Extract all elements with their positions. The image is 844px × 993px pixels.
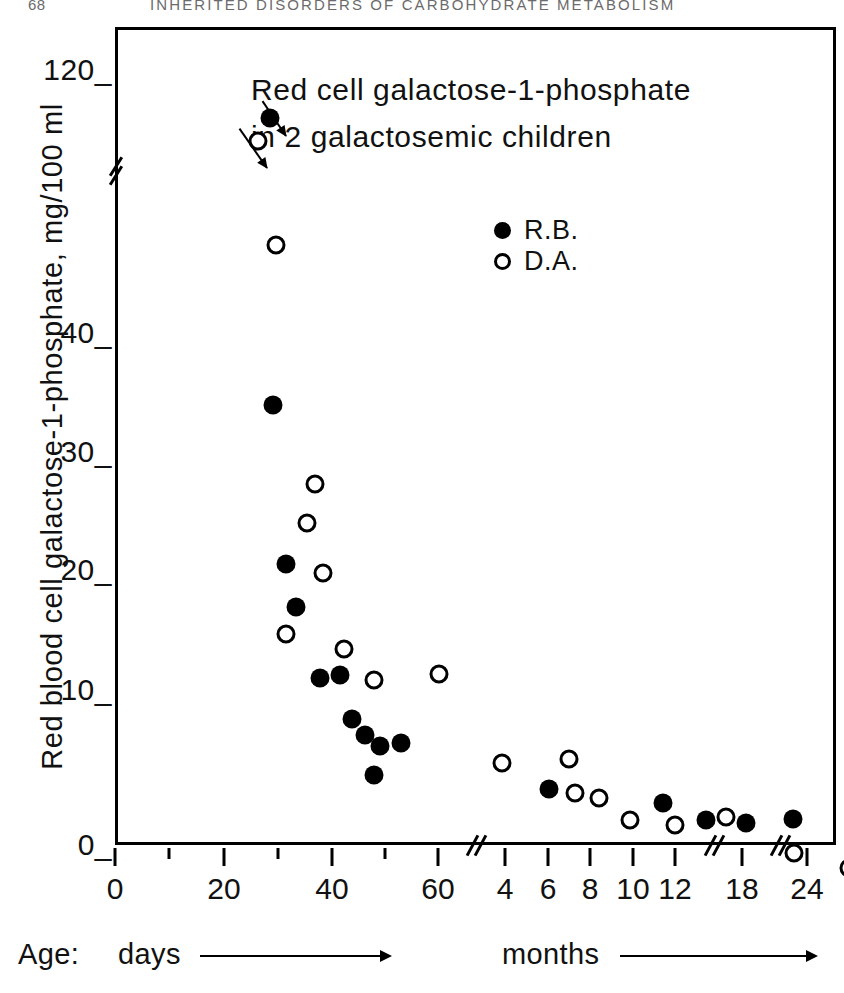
chart-legend: R.B. D.A.	[494, 215, 579, 277]
x-tick-label: 12	[658, 872, 691, 906]
data-point-da	[621, 811, 640, 830]
x-tick-mark	[674, 848, 677, 866]
open-circle-icon	[494, 253, 511, 270]
data-point-rb	[540, 780, 559, 799]
x-tick-mark	[547, 848, 550, 866]
data-point-da	[666, 816, 685, 835]
chart-title-line-2: in 2 galactosemic children	[251, 113, 691, 160]
data-point-da	[277, 625, 296, 644]
x-tick-mark	[384, 848, 387, 859]
data-point-da	[298, 514, 317, 533]
x-tick-mark	[504, 848, 507, 866]
x-tick-label: 24	[790, 872, 823, 906]
data-point-rb	[277, 555, 296, 574]
data-point-da	[306, 475, 325, 494]
x-tick-mark	[632, 848, 635, 866]
data-point-da	[493, 754, 512, 773]
data-point-rb	[392, 734, 411, 753]
x-tick-mark	[437, 848, 440, 866]
x-span-months-label: months	[502, 938, 600, 971]
x-tick-mark	[741, 848, 744, 866]
data-point-da	[590, 789, 609, 808]
running-head-title: INHERITED DISORDERS OF CARBOHYDRATE META…	[150, 0, 675, 13]
x-tick-label: 60	[421, 872, 454, 906]
data-point-da	[566, 784, 585, 803]
x-tick-label: 4	[497, 872, 514, 906]
data-point-rb	[311, 669, 330, 688]
running-head: 68 INHERITED DISORDERS OF CARBOHYDRATE M…	[0, 0, 844, 14]
data-point-rb	[371, 737, 390, 756]
x-tick-label: 6	[540, 872, 557, 906]
data-point-rb	[331, 666, 350, 685]
data-point-da	[314, 564, 333, 583]
x-axis-prefix-label: Age:	[18, 938, 79, 971]
x-tick-label: 20	[207, 872, 240, 906]
data-point-rb	[343, 710, 362, 729]
data-point-da	[785, 844, 804, 863]
data-point-da	[840, 859, 844, 878]
legend-item-da: D.A.	[494, 246, 579, 277]
x-tick-label: 18	[725, 872, 758, 906]
data-point-da	[717, 808, 736, 827]
data-point-rb	[264, 396, 283, 415]
legend-item-rb: R.B.	[494, 215, 579, 246]
x-tick-mark	[277, 848, 280, 859]
legend-label-da: D.A.	[524, 246, 579, 277]
x-tick-label: 40	[315, 872, 348, 906]
data-point-da	[560, 750, 579, 769]
x-tick-mark	[114, 848, 117, 866]
x-tick-mark	[331, 848, 334, 866]
page-folio: 68	[28, 0, 46, 13]
data-point-rb	[365, 766, 384, 785]
x-tick-mark	[223, 848, 226, 866]
x-tick-mark	[589, 848, 592, 866]
data-point-rb	[654, 794, 673, 813]
data-point-rb	[697, 811, 716, 830]
x-span-months-arrow	[620, 955, 816, 957]
x-tick-label: 0	[107, 872, 124, 906]
x-tick-label: 8	[582, 872, 599, 906]
data-point-da	[365, 671, 384, 690]
x-span-days-arrow	[200, 955, 390, 957]
chart-title: Red cell galactose-1-phosphate in 2 gala…	[251, 66, 691, 160]
x-span-days-label: days	[118, 938, 181, 971]
data-point-da	[430, 665, 449, 684]
chart-title-line-1: Red cell galactose-1-phosphate	[251, 66, 691, 113]
x-tick-mark	[806, 848, 809, 866]
chart-plot-area: Red cell galactose-1-phosphate in 2 gala…	[115, 27, 836, 845]
data-point-rb	[287, 598, 306, 617]
data-point-rb	[737, 814, 756, 833]
x-tick-label: 10	[616, 872, 649, 906]
data-point-da	[267, 236, 286, 255]
y-axis-title: Red blood cell galactose-1-phosphate, mg…	[36, 37, 69, 837]
data-point-rb	[784, 810, 803, 829]
data-point-da	[335, 640, 354, 659]
filled-circle-icon	[494, 222, 511, 239]
x-tick-mark	[168, 848, 171, 859]
legend-label-rb: R.B.	[524, 215, 579, 246]
